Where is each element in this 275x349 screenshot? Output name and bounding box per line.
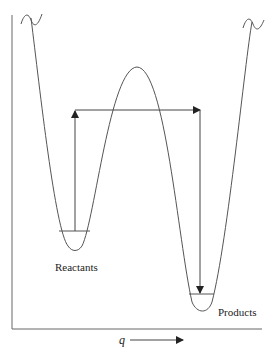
products-label: Products — [218, 306, 257, 318]
reactants-label: Reactants — [55, 261, 98, 273]
break-squiggle-right-icon — [243, 19, 264, 29]
energy-diagram: Reactants Products q — [0, 0, 275, 349]
reaction-coordinate-label: q — [119, 333, 125, 347]
